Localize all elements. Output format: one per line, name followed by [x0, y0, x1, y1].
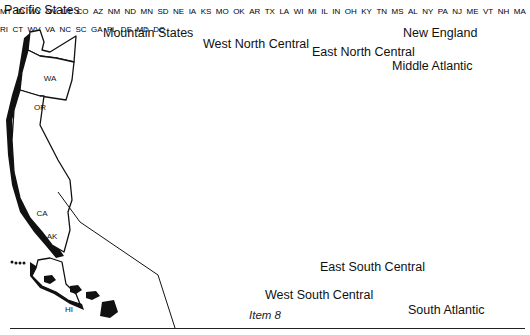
state-ak — [32, 258, 80, 304]
label-or: OR — [34, 103, 46, 112]
region-label-new-england: New England — [403, 26, 477, 40]
label-ak: AK — [47, 232, 58, 241]
label-ca: CA — [36, 209, 48, 218]
label-wa: WA — [44, 74, 57, 83]
region-label-mountain: Mountain States — [103, 26, 193, 40]
bottom-rule — [10, 328, 525, 329]
region-label-west-north-central: West North Central — [203, 37, 309, 51]
figure-caption: Item 8 — [0, 309, 530, 321]
region-label-middle-atlantic: Middle Atlantic — [392, 59, 473, 73]
state-ca — [12, 90, 72, 252]
region-label-east-north-central: East North Central — [312, 45, 415, 59]
region-label-west-south-central: West South Central — [265, 288, 373, 302]
region-label-east-south-central: East South Central — [320, 260, 425, 274]
region-pacific: WA OR CA AK HI — [6, 30, 175, 328]
region-label-pacific: Pacific States — [4, 3, 80, 17]
